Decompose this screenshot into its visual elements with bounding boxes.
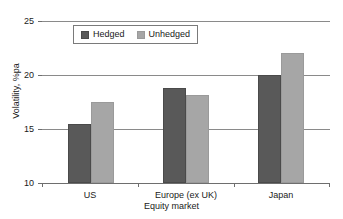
ytick-label-10: 10	[6, 179, 34, 188]
x-axis-line	[42, 183, 330, 184]
legend-entry-hedged: Hedged	[81, 30, 125, 39]
xtick-mark-2	[234, 183, 235, 187]
bar-japan-unhedged	[281, 53, 304, 183]
x-axis-title: Equity market	[0, 201, 343, 211]
y-axis-title: Volatility, %pa	[11, 31, 21, 151]
xcat-label-japan: Japan	[269, 190, 294, 200]
legend-label-hedged: Hedged	[93, 30, 125, 39]
ytick-mark-20	[38, 75, 42, 76]
ytick-mark-15	[38, 129, 42, 130]
legend-entry-unhedged: Unhedged	[137, 30, 191, 39]
xcat-label-europe: Europe (ex UK)	[155, 190, 217, 200]
xtick-mark-1	[138, 183, 139, 187]
bar-us-hedged	[68, 124, 91, 183]
bar-chart: 25 20 15 10 Volatility, %pa US Europe (e…	[0, 0, 343, 219]
legend-label-unhedged: Unhedged	[149, 30, 191, 39]
legend-swatch-hedged-icon	[81, 31, 89, 39]
bar-us-unhedged	[91, 102, 114, 183]
xtick-mark-end	[329, 183, 330, 187]
bar-europe-hedged	[163, 88, 186, 183]
bar-europe-unhedged	[186, 95, 209, 183]
ytick-label-25: 25	[6, 17, 34, 26]
legend: Hedged Unhedged	[73, 25, 198, 44]
plot-area	[42, 21, 330, 183]
gridline-25	[42, 21, 330, 22]
legend-swatch-unhedged-icon	[137, 31, 145, 39]
bar-japan-hedged	[258, 75, 281, 183]
xcat-label-us: US	[84, 190, 97, 200]
ytick-mark-25	[38, 21, 42, 22]
xtick-mark-start	[42, 183, 43, 187]
